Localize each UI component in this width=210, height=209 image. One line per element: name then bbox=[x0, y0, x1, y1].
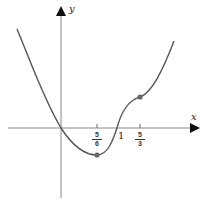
tick-label-one: 1 bbox=[118, 130, 124, 141]
local-minimum-point bbox=[94, 152, 99, 157]
x-axis-label: x bbox=[191, 112, 197, 122]
tick-label-five-sixths: 5 6 bbox=[92, 131, 102, 147]
function-graph: y x 5 6 1 5 3 bbox=[0, 0, 210, 209]
fraction-denominator: 6 bbox=[92, 140, 102, 148]
graph-svg bbox=[0, 0, 210, 209]
fraction-denominator: 3 bbox=[135, 140, 145, 148]
y-axis-label: y bbox=[69, 4, 75, 14]
y-axis-arrow-icon bbox=[56, 6, 66, 16]
fraction-numerator: 5 bbox=[92, 131, 102, 140]
x-axis-arrow-icon bbox=[190, 123, 200, 133]
tick-label-five-thirds: 5 3 bbox=[135, 131, 145, 147]
inflection-point bbox=[137, 94, 142, 99]
fraction-numerator: 5 bbox=[135, 131, 145, 140]
